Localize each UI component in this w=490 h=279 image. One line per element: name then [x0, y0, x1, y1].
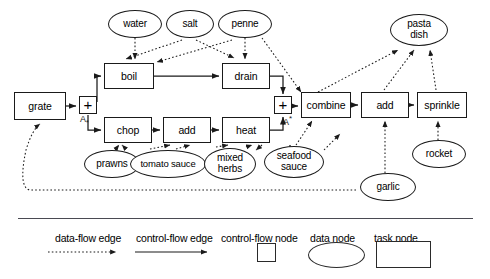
- task-node-grate-label: grate: [28, 101, 51, 112]
- edge-heat-join2: [270, 117, 283, 130]
- join-2-sublabel-text: *: [289, 114, 292, 123]
- task-node-sprinkle[interactable]: sprinkle: [417, 92, 467, 118]
- task-node-boil-label: boil: [121, 71, 137, 82]
- edge-mixedherbs-heat: [216, 145, 228, 147]
- legend-label-data-flow-edge: data-flow edge: [55, 232, 121, 244]
- task-node-add-sauce[interactable]: add: [163, 117, 211, 143]
- control-flow-node-join-1[interactable]: +: [79, 96, 97, 114]
- edge-mixedherbs-heat2: [246, 145, 252, 147]
- edge-heat-seafood: [256, 145, 262, 150]
- edge-combine-pastadish: [318, 50, 398, 92]
- task-node-drain[interactable]: drain: [222, 63, 270, 89]
- join-1-sublabel-text: *: [86, 119, 89, 126]
- legend-label-control-flow-edge: control-flow edge: [136, 232, 213, 244]
- edge-salt-boil: [126, 40, 182, 59]
- edge-join1-chop: [88, 115, 101, 130]
- data-node-mixed-herbs[interactable]: mixed herbs: [204, 148, 256, 180]
- control-flow-node-join-2[interactable]: +: [274, 96, 292, 114]
- data-node-penne-label: penne: [231, 19, 258, 29]
- data-node-rocket-label: rocket: [426, 149, 452, 159]
- task-node-drain-label: drain: [235, 71, 258, 82]
- data-node-rocket[interactable]: rocket: [412, 140, 466, 168]
- task-node-grate[interactable]: grate: [14, 92, 66, 120]
- legend-symbol-ellipse: [308, 242, 365, 268]
- data-node-pasta-dish[interactable]: pasta dish: [390, 14, 448, 46]
- data-node-salt[interactable]: salt: [166, 10, 214, 38]
- edge-tomato-add1b: [176, 145, 190, 149]
- task-node-chop-label: chop: [117, 125, 139, 136]
- data-node-pasta-dish-label: pasta dish: [407, 19, 431, 41]
- legend-symbol-rectangle: [376, 241, 431, 268]
- edge-add2-pastadish: [384, 50, 414, 90]
- data-node-mixed-herbs-label: mixed herbs: [217, 153, 243, 175]
- edge-drain-join2: [270, 76, 283, 94]
- data-node-salt-label: salt: [183, 19, 198, 29]
- task-node-combine[interactable]: combine: [301, 92, 351, 118]
- task-node-add-garlic[interactable]: add: [361, 92, 409, 118]
- edge-seafood-combineb: [324, 134, 340, 150]
- task-node-add-garlic-label: add: [376, 100, 393, 111]
- legend-divider: [18, 218, 473, 219]
- control-flow-node-join-1-label: A*: [80, 114, 89, 126]
- control-flow-node-join-1-symbol: +: [84, 97, 93, 112]
- data-node-seafood-sauce[interactable]: seafood sauce: [264, 146, 324, 178]
- data-node-garlic-label: garlic: [377, 182, 400, 192]
- edge-seafood-combine: [296, 121, 312, 145]
- edge-penne-boil: [157, 40, 232, 62]
- task-node-combine-label: combine: [307, 100, 346, 111]
- task-node-boil[interactable]: boil: [104, 63, 154, 89]
- data-node-garlic[interactable]: garlic: [360, 173, 416, 201]
- task-node-heat-label: heat: [236, 125, 256, 136]
- data-node-prawns-label: prawns: [96, 159, 127, 169]
- edge-prawns-chop: [122, 145, 125, 148]
- edge-join1-boil: [97, 76, 101, 102]
- data-node-water[interactable]: water: [108, 10, 162, 38]
- data-node-water-label: water: [123, 19, 147, 29]
- control-flow-node-join-2-label: A*: [283, 114, 292, 127]
- control-flow-node-join-2-symbol: +: [279, 97, 288, 112]
- data-node-penne[interactable]: penne: [218, 10, 272, 38]
- task-node-heat[interactable]: heat: [222, 117, 270, 143]
- data-node-tomato-sauce[interactable]: tomato sauce: [130, 150, 206, 178]
- edge-sprinkle-pastadish: [430, 50, 436, 90]
- data-node-tomato-sauce-label: tomato sauce: [140, 159, 195, 169]
- data-node-seafood-sauce-label: seafood sauce: [277, 151, 312, 173]
- diagram-canvas: grate boil drain chop add heat combine a…: [0, 0, 490, 279]
- task-node-add-sauce-label: add: [178, 125, 195, 136]
- task-node-sprinkle-label: sprinkle: [424, 100, 459, 111]
- legend-symbol-square: [257, 243, 276, 262]
- task-node-chop[interactable]: chop: [104, 117, 152, 143]
- edge-tomato-add1: [150, 145, 170, 149]
